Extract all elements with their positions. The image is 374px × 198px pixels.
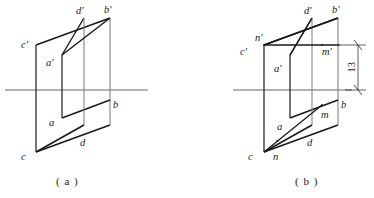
panel-a-label-c: c bbox=[21, 152, 26, 163]
panel-a-edge-c-prime-d-prime bbox=[36, 18, 110, 45]
panel-b-label-d: d bbox=[307, 138, 312, 149]
panel-b-drawing bbox=[233, 18, 366, 152]
panel-b-label-n: n bbox=[273, 152, 278, 163]
panel-b-label-n-prime: n' bbox=[255, 33, 263, 44]
panel-b-label-b-prime: b' bbox=[332, 5, 340, 16]
panel-b-label-d-prime: d' bbox=[304, 6, 312, 17]
panel-b-label-c-prime: c' bbox=[240, 47, 247, 58]
panel-a-label-b-prime: b' bbox=[104, 5, 112, 16]
panel-b-edge-a-prime-upper bbox=[290, 18, 312, 55]
dimension-value-13: 13 bbox=[347, 59, 358, 75]
panel-b-label-b: b bbox=[341, 100, 346, 111]
panel-b-label-a: a bbox=[277, 122, 282, 133]
panel-b-label-c: c bbox=[248, 152, 253, 163]
panel-a-edge-c-d bbox=[36, 125, 110, 152]
panel-b-point-n bbox=[276, 140, 278, 142]
panel-a-label-c-prime: c' bbox=[21, 40, 28, 51]
panel-a-edge-lower-c-d bbox=[36, 125, 84, 152]
panel-b-label-a-prime: a' bbox=[274, 64, 282, 75]
panel-a-label-b: b bbox=[113, 100, 118, 111]
panel-a-caption: ( a ) bbox=[56, 176, 79, 187]
panel-b-caption: ( b ) bbox=[295, 176, 318, 187]
panel-a-label-d: d bbox=[80, 138, 85, 149]
panel-a-label-d-prime: d' bbox=[76, 6, 84, 17]
panel-b-label-m: m bbox=[321, 110, 329, 121]
panel-b-point-m bbox=[321, 104, 323, 106]
panel-a-label-a-prime: a' bbox=[46, 58, 54, 69]
panel-b-edge-n-prime-b-prime bbox=[264, 18, 338, 45]
panel-b-edge-lower-c-d bbox=[264, 125, 312, 152]
panel-a-edge-a-prime-d-prime bbox=[62, 18, 84, 55]
panel-b-edge-a-b bbox=[290, 100, 338, 118]
panel-a-edge-d-prime-b-prime bbox=[62, 18, 110, 55]
panel-b-point-n-prime bbox=[263, 44, 265, 46]
panel-b-edge-c-d bbox=[264, 125, 338, 152]
panel-b-label-m-prime: m' bbox=[322, 47, 332, 58]
panel-b-line-n-m bbox=[264, 105, 322, 152]
panel-a-edge-a-b bbox=[62, 100, 110, 118]
figure-canvas bbox=[0, 0, 374, 198]
figure-root: d' b' c' a' a b d c ( a ) d' b' n' c' m'… bbox=[0, 0, 374, 198]
panel-a-label-a: a bbox=[49, 118, 54, 129]
